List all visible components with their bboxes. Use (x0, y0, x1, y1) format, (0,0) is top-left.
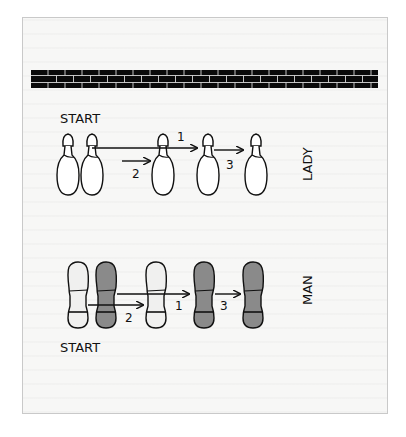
man-shoe-step-1 (194, 262, 214, 328)
man-row-label: MAN (300, 275, 315, 305)
lady-step-1-number: 1 (177, 130, 185, 144)
man-shoe-step-2 (146, 262, 166, 328)
brick-wall (31, 70, 378, 88)
lady-step-3-number: 3 (226, 158, 234, 172)
man-step-1-number: 1 (175, 299, 183, 313)
lady-shoe-step-3 (245, 134, 267, 195)
man-shoe-right-start (96, 262, 116, 328)
dance-step-diagram: START 1 2 3 LADY 1 2 3 START MAN (0, 0, 406, 437)
lady-step-2-number: 2 (132, 167, 140, 181)
lady-start-label: START (60, 111, 100, 126)
man-step-2-number: 2 (125, 311, 133, 325)
lady-row-label: LADY (300, 147, 315, 181)
lady-shoe-right-start (81, 134, 103, 195)
man-row: 1 2 3 START MAN (60, 262, 315, 355)
lady-row: START 1 2 3 LADY (57, 111, 315, 195)
man-shoe-step-3 (243, 262, 263, 328)
man-shoe-left-start (68, 262, 88, 328)
lady-shoe-step-2 (152, 134, 174, 195)
lady-shoe-step-1 (197, 134, 219, 195)
man-step-3-number: 3 (220, 299, 228, 313)
lady-shoe-left-start (57, 134, 79, 195)
man-start-label: START (60, 340, 100, 355)
